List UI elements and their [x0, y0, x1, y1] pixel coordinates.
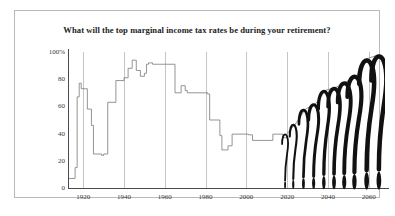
y-tick-label: 80 [58, 75, 65, 83]
x-tick-label: 1980 [199, 193, 213, 201]
plot-area: 100%806040200 19201940196019802000202020… [69, 52, 385, 188]
question-mark-hook [309, 105, 319, 176]
y-tick-label: 60 [58, 102, 65, 110]
x-tick-label: 1960 [158, 193, 172, 201]
question-mark [347, 77, 361, 190]
x-tick-label: 1920 [76, 193, 90, 201]
question-mark-dot [284, 181, 286, 188]
x-tick-label: 2040 [321, 193, 335, 201]
y-tick-label: 20 [58, 157, 65, 165]
chart-svg [69, 52, 385, 190]
question-mark-group [282, 56, 385, 189]
question-mark-hook [290, 125, 297, 179]
question-mark-dot [322, 176, 325, 189]
y-tick-label: 0 [62, 184, 66, 192]
question-mark [371, 56, 385, 189]
question-mark-dot [312, 178, 315, 189]
question-mark-dot [364, 172, 369, 190]
historical-rate-line [69, 60, 287, 178]
question-mark-dot [352, 174, 356, 189]
projected-rate-line [287, 55, 379, 134]
question-mark [290, 125, 297, 189]
question-mark-dot [377, 172, 382, 190]
x-tick-label: 2000 [239, 193, 253, 201]
question-mark-hook [282, 134, 288, 180]
chart-canvas [69, 52, 385, 188]
question-mark [299, 110, 308, 189]
question-mark-hook [371, 56, 385, 169]
question-mark [282, 134, 288, 188]
question-mark-dot [332, 176, 336, 190]
chart-frame: What will the top marginal income tax ra… [14, 10, 380, 198]
y-tick-label: 100% [49, 48, 65, 56]
question-mark-hook [299, 110, 308, 177]
question-mark-dot [302, 178, 305, 189]
x-tick-label: 1940 [117, 193, 131, 201]
x-tick-label: 2060 [362, 193, 376, 201]
chart-title: What will the top marginal income tax ra… [15, 25, 379, 35]
x-tick-label: 2020 [280, 193, 294, 201]
question-mark [309, 105, 319, 189]
question-mark-dot [342, 175, 346, 189]
question-mark [338, 83, 351, 189]
question-mark-dot [292, 180, 294, 189]
y-tick-label: 40 [58, 130, 65, 138]
